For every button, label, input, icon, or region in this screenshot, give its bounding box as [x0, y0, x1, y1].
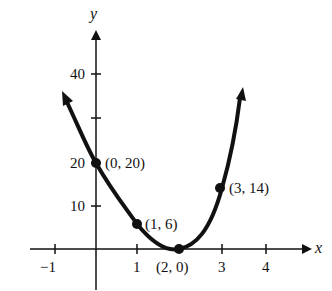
- x-axis-label: x: [314, 239, 322, 256]
- point-label: (1, 6): [145, 216, 178, 233]
- curve-arrow-left-icon: [62, 91, 73, 106]
- data-point: [91, 158, 101, 168]
- data-point: [215, 183, 225, 193]
- x-tick-label: −1: [40, 259, 56, 275]
- y-tick-label: 20: [70, 155, 85, 171]
- x-tick-label: 3: [218, 259, 226, 275]
- y-tick-label: 40: [70, 66, 85, 82]
- y-tick-label: 10: [70, 198, 85, 214]
- data-point: [174, 244, 184, 254]
- x-tick-label: 1: [133, 259, 141, 275]
- curve-arrow-right-icon: [236, 87, 246, 101]
- x-tick-label: 4: [262, 259, 270, 275]
- data-point: [132, 219, 142, 229]
- point-label: (2, 0): [156, 259, 189, 276]
- point-label: (3, 14): [229, 180, 269, 197]
- y-axis-label: y: [88, 5, 98, 23]
- point-label: (0, 20): [105, 155, 145, 172]
- chart-canvas: −1 1 3 4 10 20 40 x y (0, 20) (1, 6) (2,…: [0, 0, 332, 291]
- parabola-chart: −1 1 3 4 10 20 40 x y (0, 20) (1, 6) (2,…: [0, 0, 332, 291]
